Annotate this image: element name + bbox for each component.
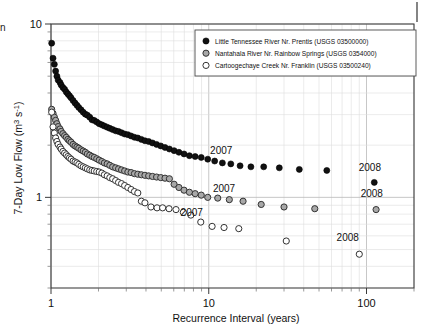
data-point: [324, 167, 330, 173]
year-annotation: 2007: [213, 183, 236, 194]
data-point: [240, 198, 246, 204]
year-annotation: 2007: [210, 145, 233, 156]
data-point: [258, 201, 264, 207]
data-point: [312, 206, 318, 212]
data-point: [50, 55, 56, 61]
data-point: [261, 164, 267, 170]
legend-marker-0: [203, 38, 209, 44]
data-point: [373, 206, 379, 212]
data-point: [371, 179, 377, 185]
data-point: [166, 176, 172, 182]
low-flow-frequency-chart: 110100110 200720082007200820072008 Littl…: [0, 0, 433, 330]
data-point: [356, 251, 362, 257]
data-point: [209, 223, 215, 229]
data-point: [166, 206, 172, 212]
data-point: [296, 166, 302, 172]
year-annotation: 2008: [337, 232, 360, 243]
year-annotation: 2008: [361, 188, 384, 199]
data-point: [226, 197, 232, 203]
data-point: [192, 191, 198, 197]
legend-label-1: Nantahala River Nr. Rainbow Springs (USG…: [215, 50, 377, 58]
figure-panel: n 110100110 200720082007200820072008 Lit…: [0, 0, 433, 330]
page-edge-fragment: n: [0, 22, 6, 33]
x-tick-label: 100: [357, 297, 375, 309]
x-tick-label: 10: [203, 297, 215, 309]
data-point: [142, 200, 148, 206]
data-point: [148, 204, 154, 210]
data-point: [283, 238, 289, 244]
data-point: [281, 204, 287, 210]
data-point: [198, 192, 204, 198]
legend-label-2: Cartoogechaye Creek Nr. Franklin (USGS 0…: [215, 62, 371, 70]
data-point: [228, 161, 234, 167]
x-tick-label: 1: [48, 297, 54, 309]
legend-label-0: Little Tennessee River Nr. Prentis (USGS…: [215, 38, 368, 46]
data-point: [186, 189, 192, 195]
data-point: [215, 195, 221, 201]
data-point: [186, 153, 192, 159]
data-point: [219, 160, 225, 166]
data-point: [50, 124, 56, 130]
x-axis-title: Recurrence Interval (years): [172, 312, 299, 324]
data-point: [49, 109, 55, 115]
data-point: [236, 226, 242, 232]
data-point: [237, 163, 243, 169]
data-point: [205, 194, 211, 200]
data-point: [192, 154, 198, 160]
data-point: [248, 164, 254, 170]
y-tick-label: 1: [36, 191, 42, 203]
data-point: [173, 206, 179, 212]
data-point: [212, 158, 218, 164]
y-axis-title: 7-Day Low Flow (m3 s-1): [12, 102, 25, 215]
series-2: [49, 109, 363, 257]
year-annotation: 2008: [359, 162, 382, 173]
year-annotation: 2007: [181, 207, 204, 218]
data-point: [135, 190, 141, 196]
data-point: [49, 40, 55, 46]
data-point: [198, 219, 204, 225]
data-point: [51, 61, 57, 67]
legend-marker-1: [203, 50, 209, 56]
data-point: [160, 205, 166, 211]
data-point: [198, 154, 204, 160]
legend-marker-2: [203, 62, 209, 68]
data-point: [181, 151, 187, 157]
data-point: [221, 224, 227, 230]
data-point: [205, 156, 211, 162]
chart-legend: Little Tennessee River Nr. Prentis (USGS…: [195, 30, 416, 76]
data-point: [276, 165, 282, 171]
y-tick-label: 10: [30, 18, 42, 30]
